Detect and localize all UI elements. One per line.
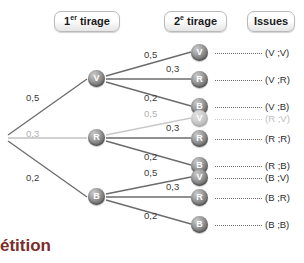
dots-v-b [215, 107, 262, 109]
node-leaf-b-r[interactable]: R [191, 189, 208, 206]
header-outcomes: Issues [247, 11, 295, 32]
issue-b-r: (B ;R) [265, 192, 290, 203]
header-second-draw-text: tirage [184, 15, 217, 27]
probability-tree-diagram: 1er tirage 2e tirage Issues 0,5 0,3 0,2 … [0, 0, 304, 263]
node-level1-b[interactable]: B [88, 188, 105, 205]
dots-r-r [215, 139, 262, 141]
issue-r-b: (R ;B) [265, 160, 290, 171]
header-second-draw: 2e tirage [164, 11, 227, 32]
issue-b-v: (B ;V) [265, 172, 289, 183]
node-leaf-v-v[interactable]: V [191, 44, 208, 61]
prob-label-v-b: 0,2 [144, 92, 157, 103]
dots-r-b [215, 166, 262, 168]
dots-r-v [215, 119, 262, 121]
tree-branch-lines [0, 0, 304, 263]
prob-label-r-b: 0,2 [144, 151, 157, 162]
node-level1-r[interactable]: R [88, 129, 105, 146]
issue-b-b: (B ;B) [265, 219, 289, 230]
prob-label-level1-r: 0,3 [26, 128, 39, 139]
header-outcomes-text: Issues [254, 15, 288, 27]
issue-r-r: (R ;R) [265, 133, 290, 144]
issue-v-b: (V ;B) [265, 101, 289, 112]
node-leaf-b-b[interactable]: B [191, 216, 208, 233]
prob-label-r-v: 0,5 [144, 108, 157, 119]
header-first-draw-text: tirage [77, 15, 110, 27]
prob-label-level1-b: 0,2 [26, 172, 39, 183]
prob-label-b-r: 0,3 [166, 181, 179, 192]
prob-label-v-r: 0,3 [166, 63, 179, 74]
dots-b-b [215, 225, 262, 227]
header-first-draw: 1er tirage [54, 11, 120, 32]
dots-b-r [215, 198, 262, 200]
node-level1-v[interactable]: V [88, 70, 105, 87]
issue-v-v: (V ;V) [265, 47, 289, 58]
issue-v-r: (V ;R) [265, 74, 290, 85]
prob-label-b-v: 0,5 [144, 167, 157, 178]
node-leaf-b-v[interactable]: V [191, 169, 208, 186]
node-leaf-v-r[interactable]: R [191, 71, 208, 88]
issue-r-v: (R ;V) [265, 113, 290, 124]
dots-v-r [215, 80, 262, 82]
prob-label-level1-v: 0,5 [26, 92, 39, 103]
node-leaf-r-v[interactable]: V [191, 110, 208, 127]
prob-label-b-b: 0,2 [144, 210, 157, 221]
dots-v-v [215, 53, 262, 55]
footer-heading: étition [0, 236, 51, 256]
prob-label-v-v: 0,5 [144, 49, 157, 60]
prob-label-r-r: 0,3 [166, 122, 179, 133]
header-first-draw-suffix: er [70, 14, 77, 21]
dots-b-v [215, 178, 262, 180]
node-leaf-r-r[interactable]: R [191, 130, 208, 147]
